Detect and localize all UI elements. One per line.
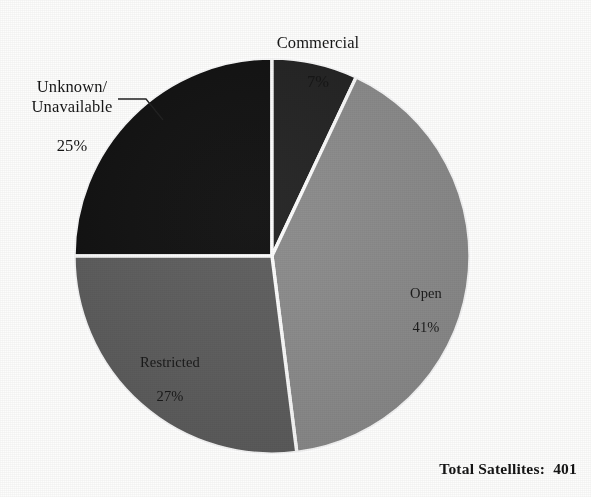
slice-label-commercial-name: Commercial <box>238 33 398 52</box>
slice-label-restricted: Restricted 27% <box>110 337 230 423</box>
slice-label-commercial: Commercial 7% <box>238 14 398 111</box>
pie-chart-figure: Commercial 7% Unknown/ Unavailable 25% O… <box>0 0 591 497</box>
slice-label-unknown-name: Unknown/ Unavailable <box>2 77 142 116</box>
slice-label-restricted-name: Restricted <box>110 354 230 371</box>
slice-label-unknown-percent: 25% <box>2 136 142 155</box>
slice-label-restricted-percent: 27% <box>110 388 230 405</box>
slice-label-open-percent: 41% <box>386 319 466 336</box>
slice-label-open: Open 41% <box>386 268 466 354</box>
total-satellites-caption: Total Satellites: 401 <box>439 460 577 478</box>
slice-label-unknown: Unknown/ Unavailable 25% <box>2 58 142 175</box>
slice-label-commercial-percent: 7% <box>238 72 398 91</box>
slice-label-open-name: Open <box>386 285 466 302</box>
